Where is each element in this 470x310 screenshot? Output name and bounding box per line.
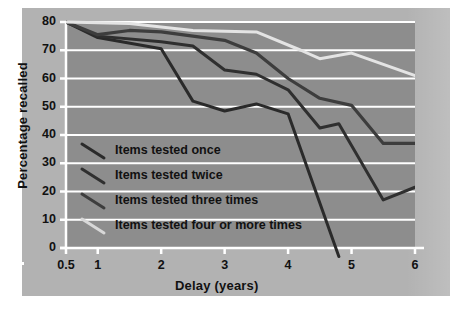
- y-tick-label-70: 70: [30, 42, 56, 56]
- y-tick-label-50: 50: [30, 99, 56, 113]
- y-tick-label-60: 60: [30, 71, 56, 85]
- x-tick-label-5: 5: [337, 258, 367, 272]
- x-tick-label-4: 4: [273, 258, 303, 272]
- y-tick-label-0: 0: [30, 240, 56, 254]
- x-tick-label-3: 3: [210, 258, 240, 272]
- legend-label-1: Items tested twice: [115, 168, 223, 182]
- y-tick-label-20: 20: [30, 184, 56, 198]
- y-tick-label-30: 30: [30, 155, 56, 169]
- x-tick-label-2: 2: [146, 258, 176, 272]
- y-tick-label-40: 40: [30, 127, 56, 141]
- x-tick-label-1: 1: [83, 258, 113, 272]
- legend-label-0: Items tested once: [115, 143, 221, 157]
- figure-container: Percentage recalled Delay (years) 010203…: [0, 0, 470, 310]
- x-tick-label-0-5: 0.5: [51, 258, 81, 272]
- x-axis-title: Delay (years): [175, 278, 259, 293]
- legend-label-2: Items tested three times: [115, 193, 258, 207]
- legend-label-3: Items tested four or more times: [115, 218, 302, 232]
- y-axis-title: Percentage recalled: [15, 46, 30, 206]
- y-tick-label-80: 80: [30, 14, 56, 28]
- x-tick-label-6: 6: [400, 258, 430, 272]
- y-tick-label-10: 10: [30, 212, 56, 226]
